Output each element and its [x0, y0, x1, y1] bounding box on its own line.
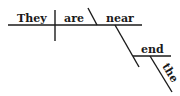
complement-slash: [88, 8, 97, 25]
word-subject: They: [17, 12, 47, 25]
sentence-diagram: They are near end the: [0, 0, 180, 96]
word-complement: near: [106, 12, 134, 25]
word-verb: are: [64, 12, 84, 25]
word-modifier: the: [159, 61, 180, 85]
prepositional-diagonal: [115, 25, 139, 67]
word-object: end: [141, 43, 164, 56]
